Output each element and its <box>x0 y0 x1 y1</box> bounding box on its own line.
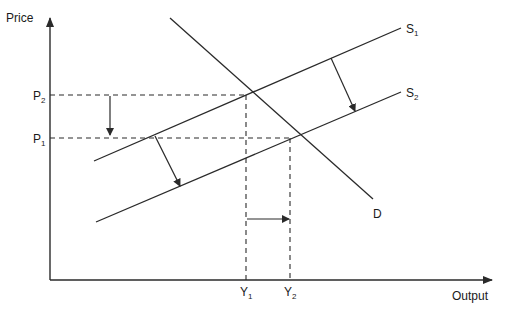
supply-shift-arrow-right <box>331 58 355 111</box>
s2-label: S2 <box>406 86 419 102</box>
x-axis-label: Output <box>452 289 489 303</box>
y2-label: Y2 <box>284 285 297 301</box>
d-label: D <box>373 207 382 221</box>
supply-demand-diagram: Price Output S1 S2 D P2 P1 Y1 Y2 <box>0 0 514 310</box>
y-axis-label: Price <box>6 11 34 25</box>
supply-shift-arrow-left <box>155 136 180 186</box>
p1-label: P1 <box>33 132 46 148</box>
s1-label: S1 <box>406 22 419 38</box>
p2-label: P2 <box>33 89 46 105</box>
y1-label: Y1 <box>240 285 253 301</box>
demand-curve-d <box>170 18 373 199</box>
supply-curve-s2 <box>96 92 401 222</box>
